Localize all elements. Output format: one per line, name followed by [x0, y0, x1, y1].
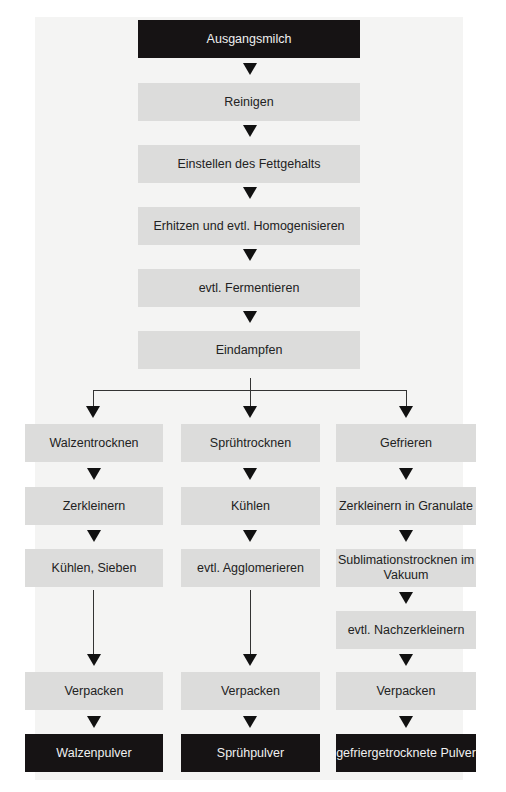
step-erhitzen: Erhitzen und evtl. Homogenisieren: [138, 207, 360, 245]
step-verpacken: Verpacken: [181, 672, 320, 710]
arrow-down-icon: [87, 468, 101, 480]
connector-line: [250, 590, 251, 656]
arrow-down-icon: [243, 530, 257, 542]
arrow-down-icon: [86, 406, 100, 418]
arrow-down-icon: [243, 311, 257, 323]
result-spruehpulver: Sprühpulver: [181, 734, 320, 772]
step-kuehlen-sieben: Kühlen, Sieben: [25, 549, 163, 587]
arrow-down-icon: [243, 468, 257, 480]
step-spruehtrocknen: Sprühtrocknen: [181, 424, 320, 462]
result-walzenpulver: Walzenpulver: [25, 734, 163, 772]
arrow-down-icon: [87, 530, 101, 542]
step-gefrieren: Gefrieren: [336, 424, 476, 462]
step-fettgehalt: Einstellen des Fettgehalts: [138, 145, 360, 183]
arrow-down-icon: [87, 716, 101, 728]
branch-line: [93, 390, 407, 391]
arrow-down-icon: [243, 654, 257, 666]
step-eindampfen: Eindampfen: [138, 331, 360, 369]
step-walzentrocknen: Walzentrocknen: [25, 424, 163, 462]
arrow-down-icon: [399, 716, 413, 728]
arrow-down-icon: [87, 654, 101, 666]
step-verpacken: Verpacken: [336, 672, 476, 710]
arrow-down-icon: [243, 125, 257, 137]
step-kuehlen: Kühlen: [181, 487, 320, 525]
arrow-down-icon: [399, 654, 413, 666]
arrow-down-icon: [399, 592, 413, 604]
arrow-down-icon: [399, 468, 413, 480]
step-sublimationstrocknen: Sublimationstrocknen im Vakuum: [336, 549, 476, 587]
connector-line: [93, 590, 94, 656]
step-verpacken: Verpacken: [25, 672, 163, 710]
result-gefriergetrocknete-pulver: gefriergetrocknete Pulver: [336, 734, 476, 772]
arrow-down-icon: [243, 249, 257, 261]
step-reinigen: Reinigen: [138, 83, 360, 121]
step-agglomerieren: evtl. Agglomerieren: [181, 549, 320, 587]
arrow-down-icon: [243, 406, 257, 418]
arrow-down-icon: [243, 187, 257, 199]
arrow-down-icon: [399, 406, 413, 418]
step-nachzerkleinern: evtl. Nachzerkleinern: [336, 611, 476, 649]
arrow-down-icon: [243, 716, 257, 728]
step-fermentieren: evtl. Fermentieren: [138, 269, 360, 307]
step-granulate: Zerkleinern in Granulate: [336, 487, 476, 525]
start-box: Ausgangsmilch: [138, 20, 360, 58]
arrow-down-icon: [243, 63, 257, 75]
arrow-down-icon: [399, 530, 413, 542]
step-zerkleinern: Zerkleinern: [25, 487, 163, 525]
